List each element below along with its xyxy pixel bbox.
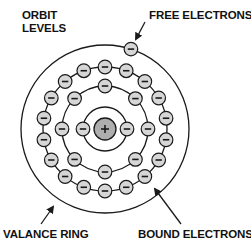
electron [37, 111, 51, 125]
electron [98, 79, 112, 93]
electron [141, 122, 155, 136]
electron [152, 153, 166, 167]
free-electrons-arrow [136, 22, 145, 39]
electron [159, 133, 173, 147]
electron [76, 122, 90, 136]
electron [45, 91, 59, 105]
atom-diagram [0, 0, 251, 244]
nucleus [94, 118, 116, 140]
valance-ring-arrow [41, 207, 53, 224]
electron [138, 170, 152, 184]
electron [119, 64, 133, 78]
electron [68, 153, 82, 167]
electron [120, 122, 134, 136]
electron [98, 184, 112, 198]
electron [58, 170, 72, 184]
electron [119, 180, 133, 194]
electron [68, 92, 82, 106]
electron [152, 91, 166, 105]
electron [124, 42, 138, 56]
bound-electrons-arrow [155, 189, 181, 224]
electron [159, 111, 173, 125]
electron [138, 75, 152, 89]
electron [129, 92, 143, 106]
electron [37, 133, 51, 147]
electron [77, 64, 91, 78]
electron [98, 165, 112, 179]
electron [129, 153, 143, 167]
electron [58, 75, 72, 89]
electron [55, 122, 69, 136]
electron [98, 60, 112, 74]
electron [77, 180, 91, 194]
electron [45, 153, 59, 167]
